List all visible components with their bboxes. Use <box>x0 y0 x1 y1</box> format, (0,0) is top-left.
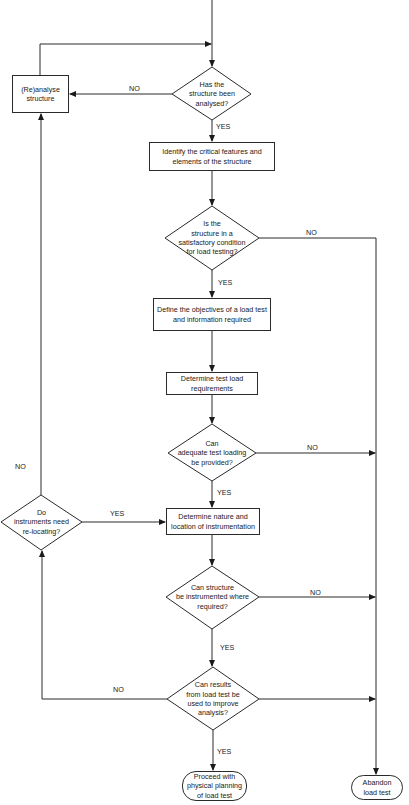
edge-reanalyse-to-analysed <box>40 44 211 75</box>
node-text: Define the objectives of a load test and… <box>157 305 267 324</box>
edge-label-condition-yes: YES <box>218 278 232 287</box>
node-text: Do instruments need re-locating? <box>14 508 69 536</box>
node-text: Determine nature and location of instrum… <box>171 512 255 531</box>
node-text: Has the structure been analysed? <box>189 80 235 108</box>
edge-label-analysed-yes: YES <box>216 122 230 131</box>
process-reanalyse-structure: (Re)analyse structure <box>12 75 69 113</box>
decision-text-condition: Is the structure in a satisfactory condi… <box>165 214 259 262</box>
decision-text-analysed: Has the structure been analysed? <box>172 74 252 114</box>
edge-label-instrumented-yes: YES <box>220 643 234 652</box>
terminal-abandon: Abandon load test <box>351 775 403 800</box>
node-text: Can results from load test be used to im… <box>186 680 240 717</box>
edge-label-loading-yes: YES <box>217 488 231 497</box>
edge-label-instrumented-no: NO <box>310 588 321 597</box>
edge-results-no <box>42 551 167 699</box>
process-determine-test-load: Determine test load requirements <box>166 372 258 395</box>
edge-label-results-no: NO <box>113 685 124 694</box>
edge-label-relocate-yes: YES <box>110 509 124 518</box>
node-text: Abandon load test <box>363 778 392 797</box>
decision-text-results: Can results from load test be used to im… <box>167 675 259 723</box>
decision-text-loading: Can adequate test loading be provided? <box>168 433 256 473</box>
decision-text-instrumented: Can structure be instrumented where requ… <box>166 577 259 617</box>
node-text: Can adequate test loading be provided? <box>178 439 247 467</box>
flowchart-canvas: (Re)analyse structure Identify the criti… <box>0 0 409 805</box>
edge-label-relocate-no: NO <box>15 462 26 471</box>
process-determine-instrumentation: Determine nature and location of instrum… <box>166 508 260 535</box>
node-text: Proceed with physical planning of load t… <box>187 772 242 800</box>
edge-label-results-yes: YES <box>217 747 231 756</box>
node-text: Is the structure in a satisfactory condi… <box>178 219 245 256</box>
process-define-objectives: Define the objectives of a load test and… <box>153 298 271 331</box>
process-identify-critical-features: Identify the critical features and eleme… <box>149 142 275 171</box>
node-text: Determine test load requirements <box>181 374 243 393</box>
terminal-proceed: Proceed with physical planning of load t… <box>182 771 247 801</box>
node-text: (Re)analyse structure <box>21 85 60 104</box>
node-text: Can structure be instrumented where requ… <box>176 583 249 611</box>
decision-text-relocate: Do instruments need re-locating? <box>1 502 82 542</box>
edge-label-loading-no: NO <box>307 443 318 452</box>
node-text: Identify the critical features and eleme… <box>162 147 261 166</box>
edge-label-analysed-no: NO <box>129 84 140 93</box>
edge-label-condition-no: NO <box>306 228 317 237</box>
edge-condition-no <box>259 238 376 774</box>
